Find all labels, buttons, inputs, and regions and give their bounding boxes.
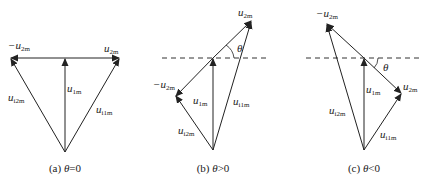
label-ui2m: ui2m [329,104,346,118]
vector-ui2m [11,59,65,152]
label-u2m: u2m [403,80,418,94]
label-u1m: u1m [366,83,381,97]
label-ui1m: ui1m [380,128,397,142]
theta-label: θ [237,42,243,54]
caption-a: (a) θ=0 [49,162,82,175]
vector-ui2m [327,25,364,150]
label-ui2m: ui2m [178,124,195,138]
label-u1m: u1m [193,94,208,108]
theta-angle-arc [374,58,378,68]
phasor-diagram-figure: −u2m u2m u1m ui2m ui1m (a) θ=0 θ u2m −u2… [0,0,431,188]
label-neg-u2m: −u2m [316,7,338,21]
label-ui1m: ui1m [233,95,250,109]
vector-ui1m [65,59,119,152]
caption-c: (c) θ<0 [348,162,381,175]
panel-a-theta-zero: −u2m u2m u1m ui2m ui1m (a) θ=0 [8,39,119,175]
vector-neg-u2m [327,24,364,58]
caption-b: (b) θ>0 [197,162,230,175]
label-neg-u2m: −u2m [8,39,30,53]
label-neg-u2m: −u2m [153,78,175,92]
label-u2m: u2m [104,42,119,56]
label-u1m: u1m [67,82,82,96]
panel-c-theta-negative: θ −u2m u2m u1m ui2m ui1m (c) θ<0 [306,7,420,175]
label-u2m: u2m [238,6,253,20]
label-ui2m: ui2m [8,91,25,105]
vector-ui1m [213,22,251,150]
label-ui1m: ui1m [96,103,113,117]
vector-neg-u2m [176,58,213,96]
panel-b-theta-positive: θ u2m −u2m u1m ui1m ui2m (b) θ>0 [153,6,270,175]
theta-label: θ [383,61,389,73]
theta-angle-arc [226,45,234,58]
